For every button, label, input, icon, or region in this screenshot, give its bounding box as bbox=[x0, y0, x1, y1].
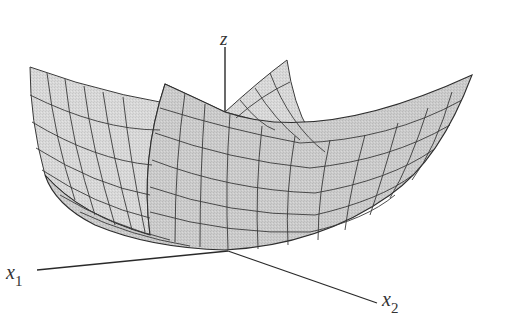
x1-axis-line bbox=[37, 251, 228, 270]
x1-axis-label: x1 bbox=[5, 261, 22, 289]
surface-plot: z x1 x2 bbox=[0, 0, 508, 329]
z-axis-label: z bbox=[219, 28, 228, 49]
x2-axis-line bbox=[228, 251, 377, 303]
axes-front bbox=[37, 251, 377, 303]
x2-axis-label: x2 bbox=[381, 288, 398, 316]
